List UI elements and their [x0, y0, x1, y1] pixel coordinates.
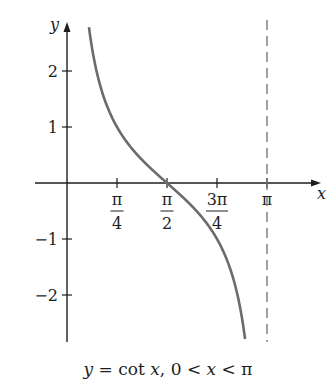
x-tick-numerator: π [162, 190, 173, 209]
x-tick-labels: π4π23π4π [111, 190, 273, 233]
y-tick-label: 1 [48, 118, 58, 137]
cot-chart: π4π23π4π 21−1−2 x y y = cot x, 0 < x < π [0, 0, 336, 387]
x-tick-label: π [262, 190, 273, 209]
x-tick-denominator: 2 [162, 214, 172, 233]
x-axis-label: x [317, 184, 326, 203]
y-tick-label: 2 [48, 62, 58, 81]
y-tick-label: −1 [34, 230, 58, 249]
y-axis-label: y [49, 15, 60, 34]
y-tick-label: −2 [34, 286, 58, 305]
x-tick-numerator: π [112, 190, 123, 209]
x-tick-denominator: 4 [212, 214, 222, 233]
chart-caption: y = cot x, 0 < x < π [83, 359, 253, 379]
x-tick-denominator: 4 [112, 214, 122, 233]
x-tick-numerator: 3π [207, 190, 228, 209]
y-axis-arrow-icon [64, 22, 71, 32]
axes [35, 22, 321, 342]
